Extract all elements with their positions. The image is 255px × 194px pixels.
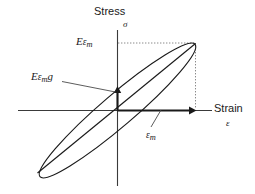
peak-strain-label: εm — [146, 129, 156, 143]
loss-modulus-suffix: g — [48, 70, 54, 82]
peak-stress-label: Eεm — [76, 36, 93, 50]
y-axis-label: Stress — [94, 6, 125, 17]
y-axis-symbol: σ — [123, 20, 127, 29]
peak-strain-subscript: m — [150, 133, 156, 142]
loss-modulus-prefix: E — [31, 70, 38, 82]
loss-modulus-label: Eεmg — [31, 71, 53, 85]
x-axis-label: Strain — [214, 103, 243, 114]
peak-stress-subscript: m — [86, 40, 92, 49]
peak-stress-prefix: E — [76, 35, 83, 47]
stress-strain-diagram: Stress σ Strain ε Eεm Eεmg εm — [0, 0, 255, 194]
loss-stress-leader-line — [62, 82, 116, 93]
diagram-canvas — [0, 0, 255, 194]
x-axis-symbol: ε — [226, 119, 230, 128]
peak-strain-arrowhead — [189, 107, 197, 115]
peak-strain-leader-line — [151, 110, 161, 127]
